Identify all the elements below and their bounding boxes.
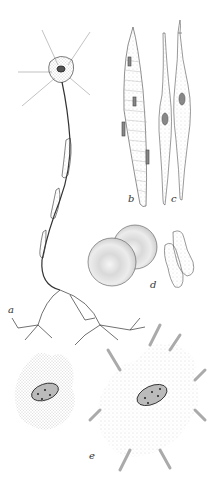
label-d: d (150, 279, 156, 290)
striated-muscle-drawing (122, 27, 149, 207)
label-c: c (171, 193, 177, 204)
pigment-cells-drawing (15, 325, 205, 470)
red-blood-cells-drawing (88, 225, 194, 288)
cell-types-illustration: a b c d (0, 0, 211, 495)
label-a: a (8, 304, 14, 315)
label-e: e (89, 450, 95, 461)
smooth-muscle-drawing (159, 20, 191, 205)
label-b: b (128, 193, 134, 204)
